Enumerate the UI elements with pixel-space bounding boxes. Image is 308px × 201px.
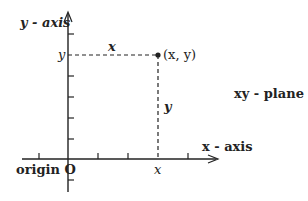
- x-coordinate-label: x: [154, 163, 161, 176]
- y-axis-label: y - axis: [20, 16, 70, 29]
- plane-label: xy - plane: [234, 87, 304, 100]
- vertical-distance-label: y: [164, 100, 172, 113]
- origin-label: origin O: [16, 163, 76, 176]
- point-marker: [155, 52, 160, 57]
- x-axis-label: x - axis: [202, 140, 253, 153]
- y-coordinate-label: y: [58, 48, 65, 61]
- horizontal-distance-label: x: [108, 40, 116, 53]
- point-label: (x, y): [163, 48, 196, 61]
- y-axis-ticks: [68, 34, 74, 180]
- y-axis-label-text: y - axis: [20, 15, 70, 30]
- x-axis-ticks: [39, 153, 188, 159]
